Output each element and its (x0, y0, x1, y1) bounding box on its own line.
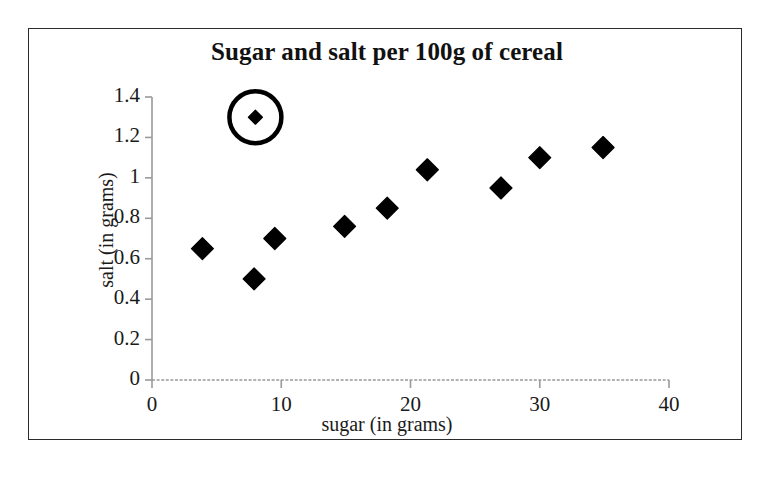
x-axis-tick-label: 0 (112, 392, 192, 417)
y-axis-tick-label: 0.2 (114, 326, 140, 351)
x-axis-tick-label: 40 (629, 392, 709, 417)
data-point-marker (376, 197, 398, 219)
y-axis-tick-label: 0.6 (114, 245, 140, 270)
data-point-marker (416, 159, 438, 181)
y-axis-tick-label: 1.4 (114, 83, 140, 108)
data-point-marker (191, 238, 213, 260)
x-axis-tick-label: 10 (241, 392, 321, 417)
y-axis-tick-label: 0.8 (114, 204, 140, 229)
x-axis-tick-label: 30 (500, 392, 580, 417)
y-axis-tick-label: 1 (130, 164, 141, 189)
y-axis-tick-label: 0.4 (114, 285, 140, 310)
scatter-plot-figure: Sugar and salt per 100g of cereal salt (… (0, 0, 774, 478)
data-point-marker (334, 215, 356, 237)
y-axis-tick-label: 1.2 (114, 123, 140, 148)
data-point-marker (592, 137, 614, 159)
data-point-marker (248, 110, 262, 124)
data-point-marker (529, 147, 551, 169)
data-point-marker (490, 177, 512, 199)
data-point-marker (243, 268, 265, 290)
y-axis-tick-label: 0 (130, 366, 141, 391)
x-axis-tick-label: 20 (371, 392, 451, 417)
data-point-marker (264, 228, 286, 250)
